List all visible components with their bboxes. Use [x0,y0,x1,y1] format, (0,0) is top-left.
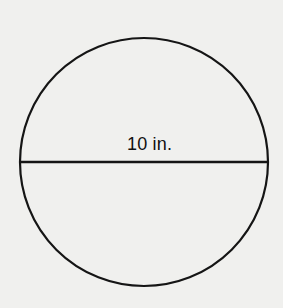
circle-figure [0,0,283,308]
diagram-canvas: 10 in. [0,0,283,308]
diameter-label: 10 in. [127,134,172,154]
